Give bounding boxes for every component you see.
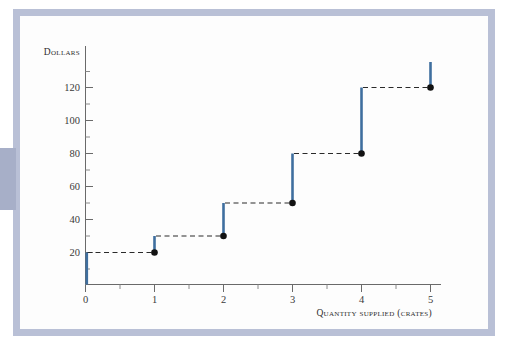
- y-tick-label: 120: [64, 82, 80, 93]
- x-axis-title: Quantity supplied (crates): [316, 308, 432, 319]
- endpoint-x4-y80: [358, 150, 365, 157]
- y-tick-label: 60: [70, 181, 81, 192]
- y-axis-ticks: [86, 72, 94, 270]
- y-tick-label: 100: [64, 115, 80, 126]
- x-tick-label: 5: [428, 294, 433, 305]
- y-tick-label: 80: [70, 148, 81, 159]
- x-axis-ticks: [86, 285, 431, 293]
- x-tick-labels: 0 1 2 3 4 5: [83, 294, 433, 305]
- x-tick-label: 1: [152, 294, 157, 305]
- x-tick-label: 3: [290, 294, 295, 305]
- step-risers: [87, 62, 431, 285]
- y-tick-label: 40: [70, 214, 81, 225]
- y-tick-label: 20: [70, 247, 81, 258]
- axes-group: [86, 46, 442, 285]
- y-tick-labels: 120 100 80 60 40 20: [64, 82, 80, 258]
- endpoint-x1-y20: [151, 249, 158, 256]
- endpoint-x2-y30: [220, 233, 227, 240]
- supply-step-chart: 120 100 80 60 40 20 0 1 2 3 4 5 Dollars …: [0, 0, 509, 349]
- x-tick-label: 0: [83, 294, 88, 305]
- chart-page: 120 100 80 60 40 20 0 1 2 3 4 5 Dollars …: [0, 0, 509, 349]
- endpoint-x5-y120: [427, 84, 434, 91]
- step-dashed-connectors: [87, 88, 430, 253]
- x-tick-label: 2: [221, 294, 226, 305]
- y-axis-title: Dollars: [44, 47, 80, 57]
- x-tick-label: 4: [359, 294, 365, 305]
- endpoint-x3-y50: [289, 200, 296, 207]
